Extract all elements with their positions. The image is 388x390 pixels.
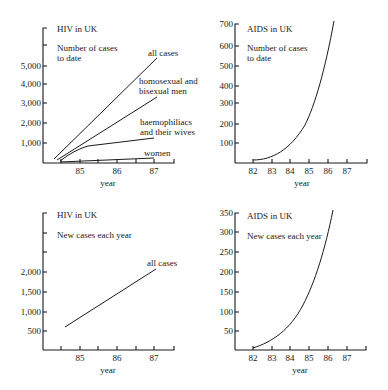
series-label-haemophiliacs: and their wives	[140, 127, 195, 137]
chart-subtitle: Number of cases	[57, 43, 118, 53]
x-tick-label: 86	[324, 166, 334, 176]
x-tick-label: 85	[305, 353, 315, 363]
x-tick-label: 85	[76, 166, 86, 176]
chart-hiv-new: 2,000 1,500 1,000 500 85 86 87 year HIV …	[21, 210, 178, 375]
x-tick-label: 86	[324, 353, 334, 363]
chart-title: AIDS in UK	[247, 211, 293, 221]
y-tick-label: 4,000	[21, 79, 42, 89]
y-tick-label: 5,000	[21, 61, 42, 71]
y-tick-label: 250	[220, 247, 234, 257]
x-axis-label: year	[292, 365, 308, 375]
y-tick-label: 1,000	[21, 138, 42, 148]
x-axis: 85 86 87 year	[43, 159, 174, 188]
chart-subtitle: to date	[57, 53, 81, 63]
y-axis: 5,000 4,000 3,000 2,000 1,000	[21, 28, 47, 163]
y-tick-label: 300	[220, 98, 234, 108]
y-axis: 700 600 500 400 300 200 100	[220, 19, 240, 163]
y-tick-label: 300	[220, 227, 234, 237]
chart-subtitle: New cases each year	[247, 231, 322, 241]
y-tick-label: 100	[220, 307, 234, 317]
x-tick-label: 86	[113, 353, 123, 363]
y-tick-label: 150	[220, 287, 234, 297]
x-tick-label: 87	[150, 166, 160, 176]
x-axis-label: year	[100, 178, 116, 188]
y-tick-label: 600	[220, 41, 234, 51]
series-label-all-cases: all cases	[147, 258, 178, 268]
y-tick-label: 200	[220, 267, 234, 277]
chart-hiv-cumulative: 5,000 4,000 3,000 2,000 1,000 85 86 87 y…	[21, 24, 198, 188]
series-women	[60, 158, 154, 162]
y-axis: 2,000 1,500 1,000 500	[21, 213, 47, 350]
y-tick-label: 200	[220, 119, 234, 129]
x-tick-label: 87	[343, 166, 353, 176]
chart-aids-new: 350 300 250 200 150 100 50 82 83 84 85 8…	[220, 208, 367, 375]
chart-subtitle: to date	[247, 53, 271, 63]
series-label-homosexual: bisexual men	[139, 86, 187, 96]
y-tick-label: 500	[28, 326, 42, 336]
series-label-women: women	[144, 148, 171, 158]
x-axis: 82 83 84 85 86 87 year	[235, 159, 367, 188]
y-tick-label: 400	[220, 81, 234, 91]
x-axis-label: year	[294, 178, 310, 188]
y-tick-label: 50	[224, 326, 234, 336]
y-tick-label: 100	[220, 138, 234, 148]
x-axis: 82 83 84 85 86 87 year	[235, 346, 366, 375]
x-tick-label: 84	[286, 353, 296, 363]
x-tick-label: 82	[249, 166, 258, 176]
chart-aids-cumulative: 700 600 500 400 300 200 100 82 83 84 85 …	[220, 19, 368, 188]
x-tick-label: 87	[150, 353, 160, 363]
chart-subtitle: Number of cases	[247, 43, 308, 53]
x-axis: 85 86 87 year	[43, 346, 174, 375]
x-tick-label: 85	[76, 353, 86, 363]
figure-four-charts: 5,000 4,000 3,000 2,000 1,000 85 86 87 y…	[0, 0, 388, 390]
x-tick-label: 83	[268, 353, 278, 363]
y-tick-label: 3,000	[21, 98, 42, 108]
x-tick-label: 82	[249, 353, 258, 363]
y-tick-label: 700	[220, 19, 234, 29]
series-aids-cumulative	[253, 21, 334, 160]
y-axis: 350 300 250 200 150 100 50	[220, 208, 240, 350]
y-tick-label: 500	[220, 61, 234, 71]
chart-subtitle: New cases each year	[57, 230, 132, 240]
y-tick-label: 1,000	[21, 307, 42, 317]
y-tick-label: 350	[220, 208, 234, 218]
chart-title: HIV in UK	[57, 24, 98, 34]
x-axis-label: year	[100, 365, 116, 375]
x-tick-label: 83	[268, 166, 278, 176]
x-tick-label: 85	[305, 166, 315, 176]
chart-title: AIDS in UK	[247, 24, 293, 34]
x-tick-label: 87	[343, 353, 353, 363]
y-tick-label: 2,000	[21, 118, 42, 128]
chart-title: HIV in UK	[57, 210, 98, 220]
series-label-haemophiliacs: haemophiliacs	[140, 117, 192, 127]
y-tick-label: 2,000	[21, 267, 42, 277]
y-tick-label: 1,500	[21, 287, 42, 297]
series-label-homosexual: homosexual and	[139, 76, 198, 86]
series-label-all-cases: all cases	[148, 48, 179, 58]
x-tick-label: 86	[113, 166, 123, 176]
x-tick-label: 84	[286, 166, 296, 176]
series-all-cases	[65, 269, 156, 327]
